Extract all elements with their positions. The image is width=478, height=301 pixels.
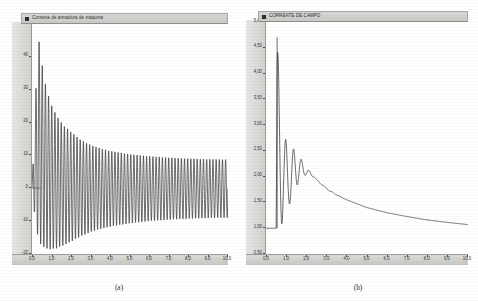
legend-bar-a[interactable]: Corrente de armadura de máquina [21, 13, 228, 24]
x-tick-label: 1,0 [283, 257, 289, 262]
x-tick-label: 6,0 [384, 257, 390, 262]
x-tick-mark [266, 255, 267, 257]
x-tick-mark [71, 255, 72, 257]
x-tick-mark [427, 255, 428, 257]
x-tick-label: 10,0 [463, 257, 471, 262]
y-tick-label: 3,50 [254, 96, 262, 101]
y-tick-label: 40 [23, 53, 28, 58]
y-tick-label: 3,00 [254, 121, 262, 126]
legend-bar-b[interactable]: CORRENTE DE CAMPO [258, 11, 468, 22]
x-tick-mark [467, 255, 468, 257]
figure-a: 50403020100-10-20 0,01,02,03,04,05,06,07… [0, 0, 238, 301]
y-axis-gutter-a: 50403020100-10-20 [12, 22, 32, 254]
y-tick-label: 1,50 [254, 199, 262, 204]
x-tick-label: 8,0 [424, 257, 430, 262]
plot-area-armature-current [32, 23, 228, 254]
x-tick-label: 9,0 [205, 257, 211, 262]
x-tick-label: 3,0 [323, 257, 329, 262]
x-tick-mark [110, 255, 111, 257]
x-tick-mark [306, 255, 307, 257]
y-tick-label: 1,00 [254, 225, 262, 230]
y-tick-label: 2,00 [254, 173, 262, 178]
legend-label-a: Corrente de armadura de máquina [32, 16, 103, 21]
x-tick-mark [286, 255, 287, 257]
x-tick-label: 8,0 [185, 257, 191, 262]
field-current-curve [266, 22, 468, 254]
legend-square-marker-icon [25, 17, 29, 21]
x-tick-mark [367, 255, 368, 257]
y-tick-mark [263, 150, 266, 151]
y-tick-label: 4,00 [254, 70, 262, 75]
x-tick-label: 5,0 [364, 257, 370, 262]
x-tick-mark [32, 255, 33, 257]
x-tick-label: 0,0 [29, 257, 35, 262]
y-tick-label: 30 [23, 86, 28, 91]
x-tick-label: 10,0 [223, 257, 231, 262]
x-tick-mark [407, 255, 408, 257]
x-tick-mark [387, 255, 388, 257]
x-tick-mark [149, 255, 150, 257]
y-tick-label: 10 [23, 152, 28, 157]
y-tick-mark [263, 124, 266, 125]
x-tick-label: 6,0 [146, 257, 152, 262]
x-tick-label: 2,0 [303, 257, 309, 262]
y-tick-mark [29, 122, 32, 123]
x-tick-mark [326, 255, 327, 257]
x-tick-label: 5,0 [127, 257, 133, 262]
x-tick-label: 4,0 [107, 257, 113, 262]
caption-b: (b) [238, 283, 478, 292]
y-tick-label: 4,50 [254, 44, 262, 49]
x-tick-mark [130, 255, 131, 257]
y-tick-mark [29, 220, 32, 221]
plot-area-field-current [266, 22, 468, 254]
x-axis-gutter-b: 0,01,02,03,04,05,06,07,08,09,010,0 [246, 254, 468, 265]
x-tick-label: 2,0 [68, 257, 74, 262]
x-tick-label: 0,0 [263, 257, 269, 262]
x-tick-mark [52, 255, 53, 257]
y-tick-label: -10 [22, 218, 28, 223]
y-tick-mark [29, 187, 32, 188]
armature-current-curve [32, 23, 228, 254]
caption-a: (a) [0, 283, 238, 292]
x-axis-gutter-a: 0,01,02,03,04,05,06,07,08,09,010,0 [12, 254, 228, 265]
y-tick-mark [263, 176, 266, 177]
y-tick-mark [29, 89, 32, 90]
x-tick-label: 3,0 [88, 257, 94, 262]
y-tick-mark [263, 201, 266, 202]
x-tick-mark [188, 255, 189, 257]
x-tick-mark [91, 255, 92, 257]
y-tick-mark [29, 154, 32, 155]
x-tick-mark [208, 255, 209, 257]
y-tick-mark [263, 73, 266, 74]
x-tick-label: 7,0 [404, 257, 410, 262]
y-tick-mark [263, 227, 266, 228]
plot-window-field-current: 5,004,504,003,503,002,502,001,501,000,50… [246, 11, 468, 265]
x-tick-label: 4,0 [343, 257, 349, 262]
plot-window-armature-current: 50403020100-10-20 0,01,02,03,04,05,06,07… [12, 13, 228, 265]
x-tick-label: 1,0 [49, 257, 55, 262]
legend-label-b: CORRENTE DE CAMPO [269, 14, 320, 19]
y-tick-label: 20 [23, 119, 28, 124]
y-tick-mark [263, 98, 266, 99]
x-tick-mark [346, 255, 347, 257]
legend-square-marker-icon [262, 15, 266, 19]
figure-page: 50403020100-10-20 0,01,02,03,04,05,06,07… [0, 0, 478, 301]
y-tick-label: 2,50 [254, 147, 262, 152]
y-axis-gutter-b: 5,004,504,003,503,002,502,001,501,000,50 [246, 20, 266, 254]
x-tick-mark [227, 255, 228, 257]
y-tick-mark [29, 56, 32, 57]
y-tick-mark [263, 47, 266, 48]
x-tick-label: 7,0 [166, 257, 172, 262]
x-tick-label: 9,0 [444, 257, 450, 262]
x-tick-mark [447, 255, 448, 257]
figure-b: 5,004,504,003,503,002,502,001,501,000,50… [238, 0, 478, 301]
x-tick-mark [169, 255, 170, 257]
